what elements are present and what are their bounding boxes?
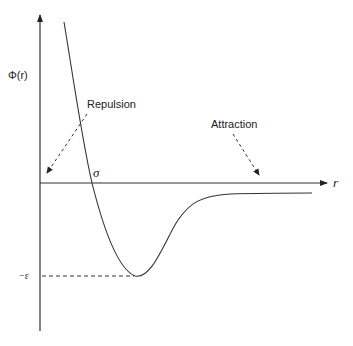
x-axis-label: r — [333, 175, 339, 190]
potential-diagram: Φ(r) r σ −ε Repulsion Attraction — [0, 0, 353, 346]
sigma-label: σ — [93, 165, 100, 180]
epsilon-label: −ε — [19, 270, 29, 281]
attraction-arrow — [233, 134, 259, 175]
repulsion-arrow — [47, 114, 87, 173]
potential-curve — [64, 22, 312, 276]
repulsion-label: Repulsion — [87, 98, 136, 110]
y-axis-label: Φ(r) — [8, 69, 28, 81]
attraction-label: Attraction — [211, 118, 257, 130]
